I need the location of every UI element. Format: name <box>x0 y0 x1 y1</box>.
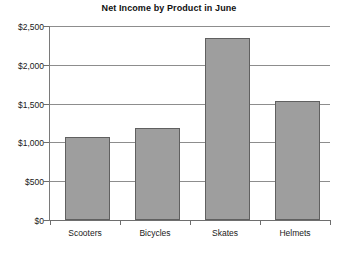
x-tick-mark-0 <box>50 220 51 225</box>
chart-title: Net Income by Product in June <box>0 3 338 13</box>
y-axis-tick-labels: $2,500 $2,000 $1,500 $1,000 $500 $0 <box>0 0 44 265</box>
gridline-2000 <box>50 65 330 66</box>
bar-skates[interactable] <box>205 38 250 220</box>
y-tick-label-0: $0 <box>0 216 44 226</box>
x-tick-mark-3 <box>260 220 261 225</box>
bar-chart-figure: Net Income by Product in June $2,500 $2,… <box>0 0 338 265</box>
y-tick-label-500: $500 <box>0 177 44 187</box>
bar-helmets[interactable] <box>275 101 320 220</box>
y-tick-label-1500: $1,500 <box>0 100 44 110</box>
y-tick-label-2500: $2,500 <box>0 22 44 32</box>
x-label-skates: Skates <box>190 228 260 238</box>
x-tick-mark-4 <box>330 220 331 225</box>
x-tick-mark-2 <box>190 220 191 225</box>
x-label-bicycles: Bicycles <box>120 228 190 238</box>
bar-scooters[interactable] <box>65 137 110 220</box>
x-label-helmets: Helmets <box>260 228 330 238</box>
bar-bicycles[interactable] <box>135 128 180 220</box>
x-label-scooters: Scooters <box>50 228 120 238</box>
y-tick-label-1000: $1,000 <box>0 138 44 148</box>
y-tick-label-2000: $2,000 <box>0 61 44 71</box>
x-tick-mark-1 <box>120 220 121 225</box>
plot-area <box>50 26 330 220</box>
gridline-2500 <box>50 26 330 27</box>
